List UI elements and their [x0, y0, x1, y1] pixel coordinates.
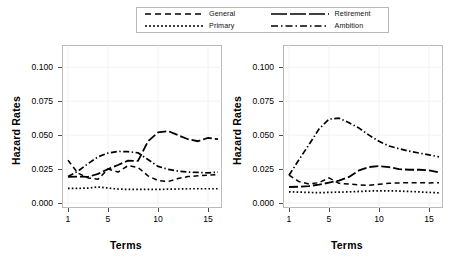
y-tick-mark-left: [58, 203, 62, 204]
y-tick-mark-right: [279, 101, 283, 102]
legend-item-retirement: Retirement: [263, 9, 389, 19]
legend-swatch-retirement: [269, 9, 331, 19]
x-tick-mark-right: [289, 208, 290, 212]
plot-panel-right: [283, 45, 443, 208]
legend-item-ambition: Ambition: [263, 21, 389, 31]
legend-label-general: General: [209, 10, 235, 17]
y-tick-label-right: 0.100: [242, 63, 274, 72]
y-tick-label-left: 0.050: [21, 131, 53, 140]
y-tick-mark-right: [279, 135, 283, 136]
plot-canvas-left: [62, 45, 222, 208]
y-tick-label-left: 0.000: [21, 199, 53, 208]
legend-swatch-primary: [143, 21, 205, 31]
x-tick-mark-right: [429, 208, 430, 212]
series-line-retirement: [68, 131, 218, 177]
y-tick-label-left: 0.075: [21, 97, 53, 106]
legend-label-ambition: Ambition: [335, 22, 364, 29]
x-tick-mark-left: [68, 208, 69, 212]
legend-swatch-ambition: [269, 21, 331, 31]
x-tick-label-left: 15: [193, 215, 223, 224]
y-tick-label-left: 0.025: [21, 165, 53, 174]
chart-legend: General Retirement Primary Ambition: [136, 7, 389, 33]
y-tick-mark-right: [279, 203, 283, 204]
x-axis-label-right: Terms: [331, 239, 363, 251]
plot-canvas-right: [283, 45, 443, 208]
legend-label-retirement: Retirement: [335, 10, 371, 17]
plot-panel-left: [62, 45, 222, 208]
series-line-general: [68, 160, 218, 181]
x-tick-mark-right: [379, 208, 380, 212]
x-tick-mark-left: [108, 208, 109, 212]
x-tick-label-left: 5: [93, 215, 123, 224]
legend-label-primary: Primary: [209, 22, 234, 29]
y-tick-label-right: 0.050: [242, 131, 274, 140]
x-tick-mark-left: [208, 208, 209, 212]
x-axis-label-left: Terms: [110, 239, 142, 251]
y-tick-mark-right: [279, 169, 283, 170]
y-tick-mark-right: [279, 67, 283, 68]
x-tick-label-right: 15: [414, 215, 444, 224]
series-line-primary: [68, 187, 218, 189]
legend-swatch-general: [143, 9, 205, 19]
x-tick-mark-left: [158, 208, 159, 212]
series-line-primary: [289, 191, 439, 193]
series-line-general: [289, 175, 439, 185]
y-tick-mark-left: [58, 169, 62, 170]
y-tick-label-right: 0.025: [242, 165, 274, 174]
y-tick-mark-left: [58, 101, 62, 102]
x-tick-label-left: 10: [143, 215, 173, 224]
x-tick-label-right: 5: [314, 215, 344, 224]
legend-item-primary: Primary: [137, 21, 263, 31]
chart-figure: General Retirement Primary Ambition: [0, 0, 458, 266]
y-tick-label-right: 0.075: [242, 97, 274, 106]
y-tick-mark-left: [58, 135, 62, 136]
series-line-ambition: [68, 151, 218, 176]
x-tick-label-left: 1: [53, 215, 83, 224]
x-tick-mark-right: [329, 208, 330, 212]
x-tick-label-right: 1: [274, 215, 304, 224]
y-tick-mark-left: [58, 67, 62, 68]
legend-item-general: General: [137, 9, 263, 19]
series-line-ambition: [289, 118, 439, 175]
x-tick-label-right: 10: [364, 215, 394, 224]
y-tick-label-right: 0.000: [242, 199, 274, 208]
y-tick-label-left: 0.100: [21, 63, 53, 72]
